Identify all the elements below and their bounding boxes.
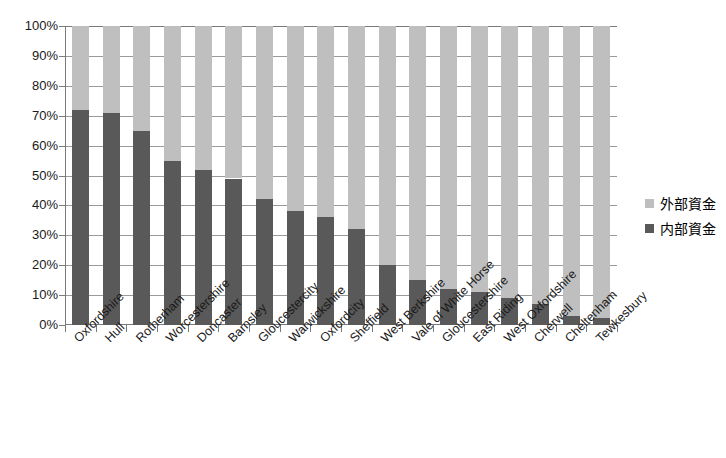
y-axis-tick-label: 70%	[0, 109, 58, 122]
bar-segment-outer-funds	[379, 26, 396, 265]
y-axis-tick-label: 20%	[0, 258, 58, 271]
legend-label-outer-funds: 外部資金	[660, 197, 716, 211]
stacked-bar-chart: 100%90%80%70%60%50%40%30%20%10%0% Oxford…	[0, 0, 726, 458]
legend-item-inner-funds: 内部資金	[645, 216, 726, 241]
y-axis-tick-label: 100%	[0, 19, 58, 32]
bar-column	[348, 26, 365, 325]
y-axis-tick-label: 40%	[0, 198, 58, 211]
y-axis-tick-label: 0%	[0, 318, 58, 331]
bar-segment-inner-funds	[133, 131, 150, 325]
y-axis-labels: 100%90%80%70%60%50%40%30%20%10%0%	[0, 26, 58, 325]
bar-segment-outer-funds	[532, 26, 549, 304]
bar-segment-outer-funds	[72, 26, 89, 110]
bar-column	[532, 26, 549, 325]
bar-column	[287, 26, 304, 325]
chart-legend: 外部資金 内部資金	[645, 191, 726, 241]
bar-segment-outer-funds	[256, 26, 273, 199]
x-axis-tick-mark	[65, 325, 66, 332]
bar-column	[133, 26, 150, 325]
bar-column	[164, 26, 181, 325]
bar-segment-outer-funds	[471, 26, 488, 292]
bar-column	[256, 26, 273, 325]
bar-segment-outer-funds	[287, 26, 304, 211]
legend-swatch-outer-icon	[645, 199, 654, 208]
bar-segment-outer-funds	[195, 26, 212, 170]
bars-layer	[65, 26, 617, 325]
bar-segment-outer-funds	[440, 26, 457, 289]
y-axis-tick-label: 90%	[0, 49, 58, 62]
y-axis-tick-label: 30%	[0, 228, 58, 241]
bar-column	[195, 26, 212, 325]
bar-column	[379, 26, 396, 325]
legend-swatch-inner-icon	[645, 224, 654, 233]
bar-segment-outer-funds	[317, 26, 334, 217]
y-axis-tick-label: 60%	[0, 139, 58, 152]
y-axis-tick-label: 80%	[0, 79, 58, 92]
bar-column	[72, 26, 89, 325]
bar-segment-outer-funds	[103, 26, 120, 113]
bar-segment-outer-funds	[133, 26, 150, 131]
legend-label-inner-funds: 内部資金	[660, 222, 716, 236]
legend-item-outer-funds: 外部資金	[645, 191, 726, 216]
y-axis-tick-label: 50%	[0, 169, 58, 182]
bar-column	[317, 26, 334, 325]
bar-segment-outer-funds	[409, 26, 426, 280]
bar-column	[409, 26, 426, 325]
bar-segment-outer-funds	[593, 26, 610, 318]
bar-segment-outer-funds	[348, 26, 365, 229]
x-axis-labels: OxfordshireHullRotherhamWorcestershireDo…	[0, 332, 726, 458]
bar-column	[593, 26, 610, 325]
chart-title-cropped	[0, 0, 726, 9]
bar-segment-outer-funds	[501, 26, 518, 298]
bar-segment-outer-funds	[225, 26, 242, 178]
y-axis-tick-label: 10%	[0, 288, 58, 301]
bar-column	[103, 26, 120, 325]
bar-segment-outer-funds	[164, 26, 181, 161]
bar-segment-inner-funds	[72, 110, 89, 325]
